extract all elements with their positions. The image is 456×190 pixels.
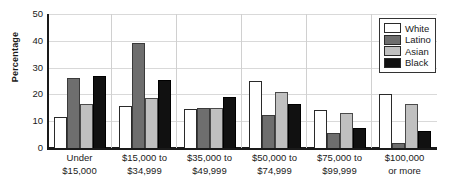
bar-asian[interactable]	[405, 104, 418, 148]
x-axis-label-line: $74,999	[242, 165, 307, 178]
legend-swatch-icon	[384, 46, 401, 56]
bar-asian[interactable]	[275, 92, 288, 148]
y-axis-ticks: 50403020100	[11, 14, 43, 148]
legend-swatch-icon	[384, 35, 401, 45]
x-axis-label-line: $75,000 to	[307, 152, 372, 165]
legend-swatch-icon	[384, 23, 401, 33]
x-axis-label-line: Under	[47, 152, 112, 165]
bar-black[interactable]	[353, 128, 366, 148]
x-axis-label-line: $15,000 to	[112, 152, 177, 165]
x-axis-label: $15,000 to$34,999	[112, 152, 177, 188]
y-tick-label: 50	[17, 8, 43, 19]
bar-asian[interactable]	[80, 104, 93, 148]
bar-asian[interactable]	[210, 108, 223, 148]
bar-latino[interactable]	[327, 133, 340, 148]
x-axis-label: $75,000 to$99,999	[307, 152, 372, 188]
x-axis-label-line: $35,000 to	[177, 152, 242, 165]
bar-white[interactable]	[119, 106, 132, 148]
bar-asian[interactable]	[340, 113, 353, 148]
y-tick-label: 0	[17, 142, 43, 153]
x-axis-label-line: $100,000	[372, 152, 437, 165]
legend: WhiteLatinoAsianBlack	[379, 18, 436, 73]
legend-item[interactable]: Black	[384, 57, 431, 68]
bar-white[interactable]	[184, 109, 197, 148]
legend-label: White	[405, 23, 429, 34]
bar-latino[interactable]	[67, 78, 80, 148]
bar-black[interactable]	[223, 97, 236, 148]
bar-group	[177, 14, 242, 148]
x-axis-label-line: or more	[372, 165, 437, 178]
x-axis-label-line: $99,999	[307, 165, 372, 178]
bar-black[interactable]	[93, 76, 106, 148]
x-axis-label: $100,000or more	[372, 152, 437, 188]
x-axis-labels: Under$15,000$15,000 to$34,999$35,000 to$…	[47, 152, 437, 188]
bar-white[interactable]	[249, 81, 262, 148]
bar-black[interactable]	[158, 80, 171, 148]
x-axis-label: $35,000 to$49,999	[177, 152, 242, 188]
x-axis-label-line: $15,000	[47, 165, 112, 178]
bar-group	[242, 14, 307, 148]
bar-latino[interactable]	[262, 115, 275, 149]
bar-latino[interactable]	[132, 43, 145, 148]
x-axis-label-line: $49,999	[177, 165, 242, 178]
bar-group	[112, 14, 177, 148]
y-tick-label: 40	[17, 35, 43, 46]
x-axis-label: Under$15,000	[47, 152, 112, 188]
legend-item[interactable]: White	[384, 23, 431, 34]
bar-group	[47, 14, 112, 148]
bar-asian[interactable]	[145, 98, 158, 148]
y-tick-label: 10	[17, 115, 43, 126]
bar-group	[307, 14, 372, 148]
bar-black[interactable]	[288, 104, 301, 148]
bar-chart: Percentage 50403020100 Under$15,000$15,0…	[0, 0, 456, 190]
legend-item[interactable]: Latino	[384, 34, 431, 45]
bar-black[interactable]	[418, 131, 431, 148]
bar-white[interactable]	[379, 94, 392, 148]
bar-latino[interactable]	[392, 143, 405, 148]
bar-latino[interactable]	[197, 108, 210, 148]
bar-white[interactable]	[54, 117, 67, 148]
y-tick-label: 20	[17, 88, 43, 99]
legend-item[interactable]: Asian	[384, 46, 431, 57]
legend-label: Black	[405, 57, 428, 68]
bar-white[interactable]	[314, 110, 327, 148]
legend-label: Asian	[405, 46, 429, 57]
x-axis-label-line: $50,000 to	[242, 152, 307, 165]
x-axis-label: $50,000 to$74,999	[242, 152, 307, 188]
legend-swatch-icon	[384, 58, 401, 68]
legend-label: Latino	[405, 34, 431, 45]
x-axis-label-line: $34,999	[112, 165, 177, 178]
y-tick-label: 30	[17, 62, 43, 73]
